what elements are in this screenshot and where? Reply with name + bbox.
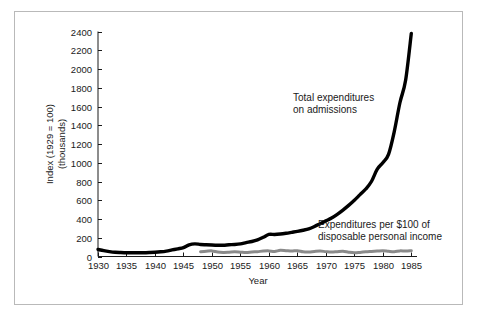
- x-tick-label: 1955: [230, 260, 251, 271]
- y-tick-label: 2000: [71, 64, 92, 75]
- x-tick-label: 1940: [145, 260, 166, 271]
- annotation-per-100-income-line1: Expenditures per $100 of: [318, 219, 430, 230]
- y-tick-label: 2400: [71, 27, 92, 38]
- y-tick-label: 1000: [71, 158, 92, 169]
- series-line-per-100-income: [201, 250, 412, 252]
- y-tick-labels: 0200400600800100012001400160018002000220…: [71, 27, 92, 263]
- y-axis-title-line1: Index (1929 = 100): [44, 104, 55, 184]
- x-tick-label: 1950: [202, 260, 223, 271]
- x-tick-label: 1930: [88, 260, 109, 271]
- y-tick-label: 200: [76, 233, 92, 244]
- figure-root: 0200400600800100012001400160018002000220…: [0, 0, 489, 317]
- y-tick-marks: [98, 33, 102, 258]
- y-tick-label: 400: [76, 214, 92, 225]
- x-tick-label: 1945: [173, 260, 194, 271]
- y-tick-label: 1400: [71, 120, 92, 131]
- y-tick-label: 600: [76, 195, 92, 206]
- x-tick-label: 1975: [344, 260, 365, 271]
- x-tick-label: 1980: [373, 260, 394, 271]
- x-tick-label: 1960: [259, 260, 280, 271]
- chart-svg: 0200400600800100012001400160018002000220…: [0, 0, 489, 317]
- annotation-per-100-income-line2: disposable personal income: [318, 231, 442, 242]
- y-tick-label: 1200: [71, 139, 92, 150]
- y-tick-label: 800: [76, 177, 92, 188]
- x-tick-label: 1970: [316, 260, 337, 271]
- x-tick-label: 1985: [401, 260, 422, 271]
- x-tick-labels: 1930193519401945195019551960196519701975…: [88, 260, 422, 271]
- x-tick-label: 1935: [116, 260, 137, 271]
- y-axis-title-line2: (thousands): [56, 119, 67, 169]
- x-tick-label: 1965: [287, 260, 308, 271]
- annotation-total-expenditures-line1: Total expenditures: [293, 92, 374, 103]
- chart-canvas: 0200400600800100012001400160018002000220…: [0, 0, 489, 317]
- x-axis-title: Year: [248, 275, 267, 286]
- y-tick-label: 1800: [71, 83, 92, 94]
- annotation-total-expenditures-line2: on admissions: [293, 104, 357, 115]
- y-axis: [98, 32, 102, 258]
- y-tick-label: 2200: [71, 45, 92, 56]
- y-tick-label: 1600: [71, 102, 92, 113]
